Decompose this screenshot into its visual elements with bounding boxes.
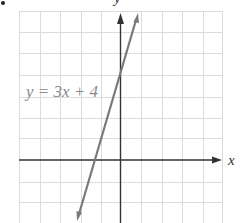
corner-dot (1, 1, 5, 5)
line-top-arrow-icon (134, 13, 140, 23)
line-graph: x y y = 3x + 4 (0, 0, 240, 223)
y-axis-label: y (112, 0, 121, 6)
equation-label: y = 3x + 4 (24, 82, 99, 101)
x-axis-arrow-icon (212, 157, 222, 164)
function-line (77, 13, 140, 221)
y-axis-arrow-icon (117, 13, 124, 24)
x-axis-label: x (227, 152, 235, 168)
